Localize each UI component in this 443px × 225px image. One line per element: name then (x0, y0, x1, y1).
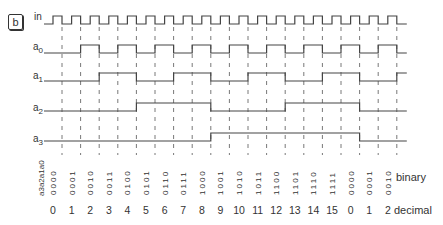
decimal-value: 5 (137, 204, 155, 216)
binary-value: 0110 (161, 170, 170, 195)
decimal-value: 10 (230, 204, 248, 216)
decimal-value: 14 (304, 204, 322, 216)
decimal-value: 4 (118, 204, 136, 216)
binary-value: 0011 (105, 170, 114, 195)
decimal-value: 12 (267, 204, 285, 216)
decimal-value: 8 (193, 204, 211, 216)
decimal-value: 0 (44, 204, 62, 216)
decimal-row-label: decimal (394, 204, 432, 216)
binary-row-label: binary (396, 171, 426, 183)
binary-value: 1101 (291, 170, 300, 195)
decimal-value: 13 (286, 204, 304, 216)
binary-value: 1111 (328, 171, 337, 195)
decimal-value: 15 (323, 204, 341, 216)
bit-order-header: a3a2a1a0 (37, 160, 46, 196)
binary-value: 0001 (68, 169, 77, 195)
binary-value: 1001 (216, 169, 225, 195)
binary-value: 0111 (179, 170, 188, 195)
binary-value: 1011 (254, 170, 263, 195)
decimal-value: 1 (360, 204, 378, 216)
decimal-value: 7 (174, 204, 192, 216)
decimal-value: 0 (342, 204, 360, 216)
binary-value: 1010 (235, 169, 244, 195)
decimal-value: 6 (156, 204, 174, 216)
binary-value: 1000 (198, 169, 207, 195)
decimal-value: 1 (63, 204, 81, 216)
decimal-value: 9 (211, 204, 229, 216)
decimal-value: 11 (249, 204, 267, 216)
binary-value: 0010 (384, 169, 393, 195)
binary-value: 0001 (365, 169, 374, 195)
binary-value: 0100 (123, 169, 132, 195)
decimal-value: 2 (81, 204, 99, 216)
binary-value: 0000 (347, 169, 356, 195)
binary-value: 0000 (49, 169, 58, 195)
binary-value: 1100 (272, 170, 281, 195)
binary-value: 1110 (309, 170, 318, 195)
binary-value: 0010 (86, 169, 95, 195)
binary-value: 0101 (142, 169, 151, 195)
decimal-value: 3 (100, 204, 118, 216)
